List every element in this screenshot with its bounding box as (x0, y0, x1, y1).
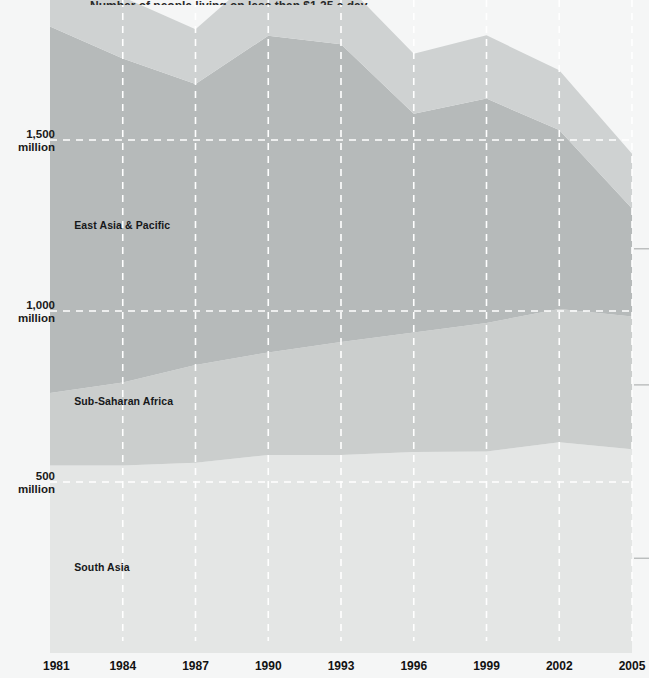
x-tick-1981: 1981 (43, 659, 70, 673)
x-tick-1984: 1984 (109, 659, 136, 673)
series-label-east-asia-pacific: East Asia & Pacific (74, 219, 170, 231)
y-tick-1500-unit: million (18, 141, 55, 153)
x-tick-1999: 1999 (473, 659, 500, 673)
stacked-area-chart: 1,500 million 1,000 million 500 million … (0, 0, 649, 678)
x-tick-2002: 2002 (546, 659, 573, 673)
x-axis-labels: 198119841987199019931996199920022005 (43, 659, 646, 673)
y-tick-1000-unit: million (18, 312, 55, 324)
x-tick-1996: 1996 (400, 659, 427, 673)
y-tick-1000-value: 1,000 (26, 299, 55, 311)
y-tick-500-value: 500 (36, 470, 55, 482)
series-label-sub-saharan-africa: Sub-Saharan Africa (74, 395, 173, 407)
y-tick-500-unit: million (18, 483, 55, 495)
x-tick-1990: 1990 (255, 659, 282, 673)
x-tick-1987: 1987 (182, 659, 209, 673)
series-label-south-asia: South Asia (74, 561, 130, 573)
y-tick-1500-value: 1,500 (26, 128, 55, 140)
chart-root: 1,500 million 1,000 million 500 million … (0, 0, 649, 678)
x-tick-1993: 1993 (328, 659, 355, 673)
x-tick-2005: 2005 (619, 659, 646, 673)
